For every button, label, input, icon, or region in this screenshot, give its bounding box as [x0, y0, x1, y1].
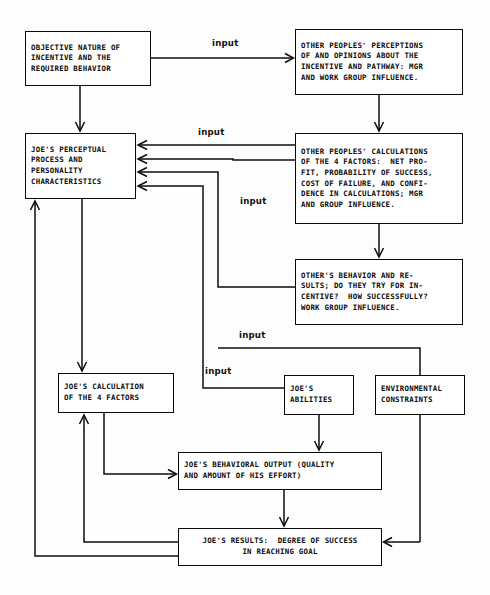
- wire-others-behavior-to-perceptual: [139, 172, 295, 287]
- box-environmental-constraints[interactable]: ENVIRONMENTAL CONSTRAINTS: [375, 375, 465, 415]
- box-line: INCENTIVE AND THE: [31, 53, 145, 64]
- box-line: PERSONALITY: [31, 166, 130, 177]
- box-joes-calculation-of-4-factors[interactable]: JOE'S CALCULATION OF THE 4 FACTORS: [58, 373, 174, 413]
- box-line: OF THE 4 FACTORS: NET PRO-: [301, 157, 457, 168]
- box-line: OTHER'S BEHAVIOR AND RE-: [301, 271, 457, 282]
- box-other-peoples-perceptions[interactable]: OTHER PEOPLES' PERCEPTIONS OF AND OPINIO…: [295, 29, 463, 95]
- wire-calculations-side-to-perceptual: [139, 159, 295, 160]
- box-line: JOE'S BEHAVIORAL OUTPUT (QUALITY: [184, 460, 376, 471]
- box-line: JOE'S: [290, 384, 348, 395]
- edge-label-input-3: input: [240, 196, 266, 206]
- edge-label-input-5: input: [205, 366, 231, 376]
- box-line: JOE'S PERCEPTUAL: [31, 145, 130, 156]
- box-line: JOE'S CALCULATION: [64, 382, 168, 393]
- box-others-behavior-and-results[interactable]: OTHER'S BEHAVIOR AND RE- SULTS; DO THEY …: [295, 259, 463, 325]
- edge-label-input-4: input: [239, 330, 265, 340]
- box-joes-behavioral-output[interactable]: JOE'S BEHAVIORAL OUTPUT (QUALITY AND AMO…: [178, 452, 382, 490]
- box-line: PROCESS AND: [31, 155, 130, 166]
- box-line: OBJECTIVE NATURE OF: [31, 43, 145, 54]
- wire-calculation-to-output: [104, 413, 175, 474]
- box-line: OF AND OPINIONS ABOUT THE: [301, 51, 457, 62]
- box-line: DENCE IN CALCULATIONS; MGR: [301, 189, 457, 200]
- box-line: ABILITIES: [290, 395, 348, 406]
- box-line: WORK GROUP INFLUENCE.: [301, 303, 457, 314]
- box-line: REQUIRED BEHAVIOR: [31, 64, 145, 75]
- box-line: FIT, PROBABILITY OF SUCCESS,: [301, 168, 457, 179]
- box-other-peoples-calculations[interactable]: OTHER PEOPLES' CALCULATIONS OF THE 4 FAC…: [295, 133, 463, 224]
- box-line: COST OF FAILURE, AND CONFI-: [301, 179, 457, 190]
- flowchart-canvas: OBJECTIVE NATURE OF INCENTIVE AND THE RE…: [0, 0, 490, 595]
- edge-label-input-2: input: [198, 127, 224, 137]
- box-line: OTHER PEOPLES' PERCEPTIONS: [301, 41, 457, 52]
- box-line: OF THE 4 FACTORS: [64, 393, 168, 404]
- box-line: INCENTIVE AND PATHWAY: MGR: [301, 62, 457, 73]
- edge-label-input-1: input: [212, 38, 238, 48]
- box-line: AND GROUP INFLUENCE.: [301, 200, 457, 211]
- box-line: SULTS; DO THEY TRY FOR IN-: [301, 281, 457, 292]
- wire-results-to-calculation: [84, 416, 178, 542]
- box-line: AND AMOUNT OF HIS EFFORT): [184, 471, 376, 482]
- box-joes-abilities[interactable]: JOE'S ABILITIES: [284, 375, 354, 415]
- box-line: OTHER PEOPLES' CALCULATIONS: [301, 147, 457, 158]
- box-line: CHARACTERISTICS: [31, 177, 130, 188]
- box-joes-results[interactable]: JOE'S RESULTS: DEGREE OF SUCCESS IN REAC…: [178, 528, 382, 566]
- box-line: CONSTRAINTS: [381, 395, 459, 406]
- box-objective-nature-of-incentive[interactable]: OBJECTIVE NATURE OF INCENTIVE AND THE RE…: [25, 31, 151, 86]
- box-joes-perceptual-process[interactable]: JOE'S PERCEPTUAL PROCESS AND PERSONALITY…: [25, 133, 136, 199]
- box-line: CENTIVE? HOW SUCCESSFULLY?: [301, 292, 457, 303]
- box-line: ENVIRONMENTAL: [381, 384, 459, 395]
- box-line: JOE'S RESULTS: DEGREE OF SUCCESS: [202, 536, 357, 547]
- box-line: AND WORK GROUP INFLUENCE.: [301, 73, 457, 84]
- box-line: IN REACHING GOAL: [242, 547, 317, 558]
